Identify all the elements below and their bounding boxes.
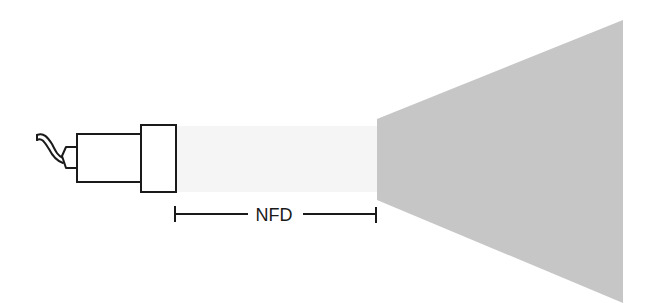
connector-icon [62,147,76,168]
light-cone [377,20,623,303]
nfd-diagram: NFD [0,0,664,303]
nfd-label: NFD [256,205,293,225]
lens-housing [141,125,176,192]
faint-beam-band [176,126,378,192]
camera-body [77,134,141,182]
cable-icon [37,134,63,163]
